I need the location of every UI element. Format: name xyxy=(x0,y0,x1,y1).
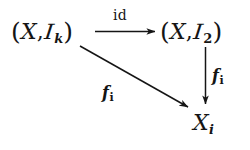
node-subscript: k xyxy=(54,31,63,46)
commutative-diagram: (X,Ik) (X,I2) Xi id fi fi xyxy=(0,0,250,150)
diagonal-f-arrow-line xyxy=(80,46,188,107)
vertical-arrow-label-subscript: i xyxy=(219,74,223,87)
node-top-left: (X,Ik) xyxy=(11,18,73,43)
vertical-arrow-label: fi xyxy=(212,68,223,84)
vertical-arrow-label-base: f xyxy=(212,66,219,85)
diagonal-arrow-label-subscript: i xyxy=(109,91,113,104)
diagonal-arrow-label-base: f xyxy=(102,83,109,102)
horizontal-arrow-label: id xyxy=(113,8,127,22)
close-paren: ) xyxy=(63,17,73,46)
open-paren: ( xyxy=(160,17,170,46)
node-bottom-right: Xi xyxy=(193,112,214,134)
close-paren: ) xyxy=(212,17,222,46)
node-subscript: i xyxy=(209,122,214,137)
node-top-right: (X,I2) xyxy=(160,18,222,43)
node-base-symbol: X xyxy=(170,19,186,44)
node-base-symbol: X xyxy=(21,19,37,44)
diagonal-arrow-label: fi xyxy=(102,85,113,101)
open-paren: ( xyxy=(11,17,21,46)
node-base-symbol: X xyxy=(193,110,209,135)
